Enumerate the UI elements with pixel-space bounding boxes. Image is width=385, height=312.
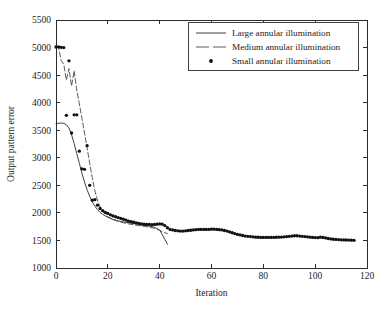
series-2-dots: [54, 45, 355, 242]
data-point: [88, 184, 91, 187]
data-point: [96, 204, 99, 207]
x-tick-label: 40: [155, 271, 165, 281]
x-tick-label: 120: [360, 271, 375, 281]
data-point: [70, 131, 73, 134]
series-1-line: [56, 47, 167, 234]
y-tick-label: 1500: [32, 236, 51, 246]
legend-entry-label: Small annular illumination: [232, 56, 331, 66]
x-axis-title: Iteration: [195, 288, 227, 298]
y-tick-label: 4000: [32, 98, 51, 108]
data-point: [65, 114, 68, 117]
data-point: [352, 239, 355, 242]
y-tick-label: 3000: [32, 153, 51, 163]
y-tick-label: 1000: [32, 263, 51, 273]
data-point: [62, 46, 65, 49]
data-point: [78, 150, 81, 153]
data-point: [93, 198, 96, 201]
data-point: [85, 144, 88, 147]
y-tick-label: 4500: [32, 71, 51, 81]
y-tick-label: 5500: [32, 15, 51, 25]
y-axis-title: Output pattern error: [6, 105, 16, 182]
legend-swatch-dot-icon: [209, 59, 213, 63]
chart-legend[interactable]: Large annular illuminationMedium annular…: [188, 22, 358, 70]
x-tick-label: 100: [308, 271, 323, 281]
y-tick-label: 2500: [32, 181, 51, 191]
data-series: [54, 45, 355, 244]
series-0-line: [56, 123, 167, 244]
data-point: [163, 224, 166, 227]
data-point: [98, 207, 101, 210]
legend-entry-label: Large annular illumination: [232, 28, 331, 38]
y-tick-label: 3500: [32, 126, 51, 136]
data-point: [67, 59, 70, 62]
x-tick-label: 80: [259, 271, 269, 281]
y-tick-label: 5000: [32, 43, 51, 53]
y-tick-label: 2000: [32, 208, 51, 218]
x-tick-label: 0: [54, 271, 59, 281]
x-tick-label: 60: [207, 271, 217, 281]
data-point: [83, 168, 86, 171]
output-pattern-error-chart: 0204060801001201000150020002500300035004…: [0, 0, 385, 312]
data-point: [75, 113, 78, 116]
legend-entry-label: Medium annular illumination: [232, 42, 341, 52]
figure-container: 0204060801001201000150020002500300035004…: [0, 0, 385, 312]
x-tick-label: 20: [103, 271, 113, 281]
